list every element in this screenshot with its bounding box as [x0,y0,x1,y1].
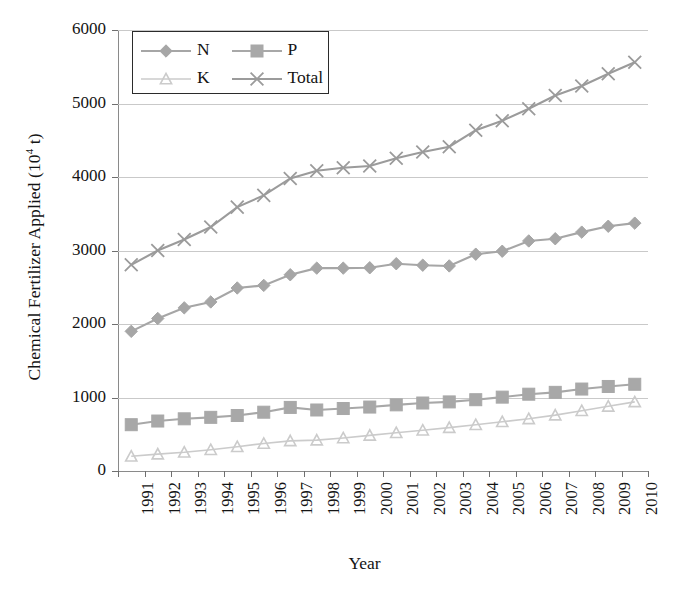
x-tick-label: 2003 [456,482,476,515]
x-tick-label: 2005 [509,482,529,515]
x-tick-label: 2008 [589,482,609,515]
x-axis-title-text: Year [348,553,380,574]
data-point-diamond [496,245,508,257]
legend-key-p-square-icon [231,43,283,57]
data-point-diamond [523,235,535,247]
data-point-square [417,397,429,409]
data-point-cross [602,67,615,80]
legend-item-n[interactable]: N [140,41,231,59]
data-point-diamond [443,260,455,272]
x-tick-mark [622,471,623,477]
data-point-diamond [311,262,323,274]
x-tick-mark [542,471,543,477]
legend-label-n: N [197,41,210,59]
x-tick-mark [383,471,384,477]
x-tick-label: 1997 [297,482,317,515]
x-tick-mark [436,471,437,477]
legend-item-total[interactable]: Total [231,69,322,87]
x-tick-mark [304,471,305,477]
x-tick-label: 1993 [191,482,211,515]
data-point-square [205,411,217,423]
series-group [118,30,648,471]
data-point-cross [178,233,191,246]
data-point-cross [125,258,138,271]
data-point-square [258,406,270,418]
legend-item-k[interactable]: K [140,69,231,87]
data-point-square [470,394,482,406]
legend-row-1: N P [140,36,321,64]
data-point-diamond [549,233,561,245]
data-point-diamond [231,282,243,294]
x-tick-label: 2001 [403,482,423,515]
x-tick-mark [595,471,596,477]
legend-key-glyph [231,71,283,87]
series-n [125,217,641,338]
legend-key-glyph [140,43,192,59]
y-axis-title-text: Chemical Fertilizer Applied (10 [24,154,44,380]
data-point-diamond [178,302,190,314]
y-tick-label-text: 2000 [72,313,106,333]
x-tick-label: 1998 [324,482,344,515]
x-tick-mark [330,471,331,477]
data-point-cross [522,102,535,115]
data-point-cross [469,124,482,137]
data-point-cross [496,114,509,127]
data-point-cross [628,56,641,69]
y-tick-label-text: 5000 [72,93,106,113]
x-tick-label: 2006 [536,482,556,515]
x-tick-label: 2009 [615,482,635,515]
legend-key-total-cross-icon [231,71,283,85]
x-tick-label: 2010 [642,482,662,515]
data-point-diamond [602,220,614,232]
legend-key-k-triangle-icon [140,71,192,85]
x-tick-mark [277,471,278,477]
legend-label-p: P [288,41,298,59]
x-tick-mark [251,471,252,477]
x-tick-label: 2007 [562,482,582,515]
data-point-diamond [417,259,429,271]
data-point-triangle [629,396,640,406]
data-point-diamond [284,269,296,281]
data-point-diamond [337,262,349,274]
plot-area: 0100020003000400050006000 19911992199319… [118,30,648,471]
y-tick-label-text: 0 [98,460,107,480]
x-tick-label: 1992 [165,482,185,515]
x-tick-mark [145,471,146,477]
x-tick-mark [198,471,199,477]
data-point-cross [284,172,297,185]
x-tick-mark [118,471,119,477]
data-point-square [364,401,376,413]
legend-key-glyph [140,71,192,87]
chart-figure: Chemical Fertilizer Applied (104 t) 0100… [0,0,689,602]
legend-item-p[interactable]: P [231,41,322,59]
x-tick-label: 1994 [218,482,238,515]
series-p [125,378,641,430]
data-point-square [152,415,164,427]
data-point-square [496,391,508,403]
data-point-square [251,45,263,57]
data-point-square [178,413,190,425]
data-point-square [443,396,455,408]
x-tick-mark [410,471,411,477]
x-tick-label: 1995 [244,482,264,515]
legend: N P K Total [132,31,329,94]
legend-key-n-diamond-icon [140,43,192,57]
data-point-square [602,380,614,392]
x-tick-mark [489,471,490,477]
data-point-diamond [470,248,482,260]
data-point-square [311,404,323,416]
data-point-square [576,383,588,395]
x-tick-mark [224,471,225,477]
data-point-cross [257,189,270,202]
x-tick-mark [463,471,464,477]
data-point-cross [231,201,244,214]
data-point-diamond [152,312,164,324]
data-point-square [629,378,641,390]
x-tick-mark [171,471,172,477]
data-point-square [125,419,137,431]
legend-row-2: K Total [140,64,321,92]
x-tick-mark [357,471,358,477]
legend-label-total: Total [288,69,324,87]
data-point-diamond [364,262,376,274]
data-point-diamond [629,217,641,229]
